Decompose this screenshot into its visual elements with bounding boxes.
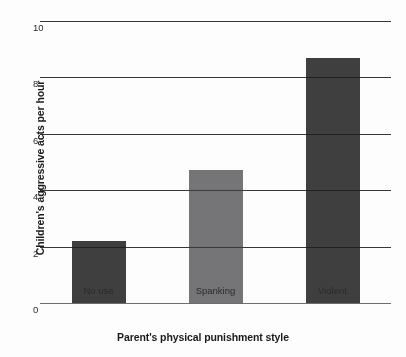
gridline-overlay-4 [40, 190, 391, 191]
gridline-overlay-6 [40, 134, 391, 135]
gridline-overlay-2 [40, 247, 391, 248]
x-tick-label: No use [39, 285, 159, 296]
bar-violent [306, 58, 360, 303]
x-axis-title: Parent's physical punishment style [0, 331, 406, 343]
gridline-overlay-8 [40, 77, 391, 78]
plot-area: 0246810 [40, 21, 391, 303]
x-axis-baseline [40, 303, 391, 304]
y-tick-label: 2 [33, 249, 53, 259]
x-tick-label: Spanking [156, 285, 276, 296]
y-tick-label: 8 [33, 79, 53, 89]
x-tick-label: Violent [273, 285, 393, 296]
bar-chart-figure: Children's aggressive acts per hour 0246… [0, 0, 406, 357]
gridline-overlay-10 [40, 21, 391, 22]
y-tick-label: 10 [33, 23, 53, 33]
y-tick-label: 6 [33, 136, 53, 146]
y-tick-label: 4 [33, 192, 53, 202]
y-tick-label: 0 [33, 305, 53, 315]
